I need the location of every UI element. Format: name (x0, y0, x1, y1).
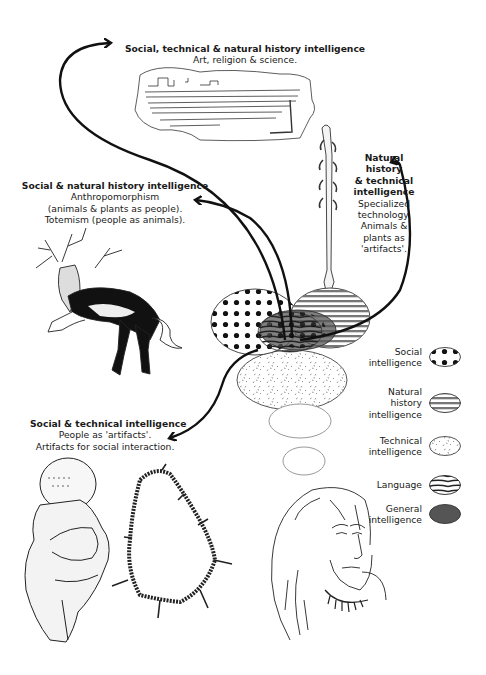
label-top: Social, technical & natural history inte… (120, 43, 370, 66)
label-right-upper-line: 'artifacts'. (346, 243, 422, 254)
label-right-upper-title: Natural history (346, 152, 422, 175)
language-pattern-icon (428, 474, 462, 496)
label-left-lower-line: People as 'artifacts'. (30, 429, 180, 440)
engraved-plaque-drawing (135, 68, 315, 141)
legend-label: Natural (369, 386, 422, 397)
empty-ellipse-2 (283, 447, 325, 475)
label-right-upper-line: plants as (346, 232, 422, 243)
deer-shaman-cave-painting (36, 228, 182, 375)
legend-label: Technical (369, 435, 422, 446)
barbed-harpoon-drawing (319, 125, 336, 300)
label-left-lower-title: Social & technical intelligence (30, 418, 180, 429)
label-right-upper-line: Animals & (346, 220, 422, 231)
label-right-upper-title: intelligence (346, 186, 422, 197)
legend-label: intelligence (369, 446, 422, 457)
legend-label: Language (377, 479, 422, 490)
natural-history-pattern-icon (428, 392, 462, 414)
label-left-upper-line: Totemism (people as animals). (20, 214, 210, 225)
label-top-title: Social, technical & natural history inte… (120, 43, 370, 54)
label-top-line: Art, religion & science. (120, 54, 370, 65)
label-right-upper-line: technology. (346, 209, 422, 220)
venus-figurine-drawing (25, 458, 109, 642)
label-left-lower: Social & technical intelligence People a… (30, 418, 180, 452)
label-left-upper: Social & natural history intelligence An… (20, 180, 210, 226)
general-pattern-icon (428, 503, 462, 525)
technical-ellipse (237, 350, 347, 410)
legend-item-general: General intelligence (369, 503, 462, 526)
label-left-upper-line: Anthropomorphism (20, 191, 210, 202)
technical-pattern-icon (428, 435, 462, 457)
legend-label: intelligence (369, 357, 422, 368)
label-left-upper-line: (animals & plants as people). (20, 203, 210, 214)
legend-label: intelligence (369, 409, 422, 420)
legend-label: history (369, 397, 422, 408)
social-pattern-icon (428, 346, 462, 368)
legend-item-natural-history: Natural history intelligence (369, 386, 462, 420)
legend-label: intelligence (369, 514, 422, 525)
legend-label: General (369, 503, 422, 514)
legend-item-language: Language (377, 474, 462, 496)
label-right-upper: Natural history & technical intelligence… (346, 152, 422, 255)
label-right-upper-line: Specialized (346, 198, 422, 209)
legend-label: Social (369, 346, 422, 357)
label-left-lower-line: Artifacts for social interaction. (30, 441, 180, 452)
label-right-upper-title: & technical (346, 175, 422, 186)
empty-ellipse-1 (269, 404, 331, 438)
legend: Social intelligence Natural history inte… (360, 330, 486, 560)
tooth-bead-necklace-drawing (112, 464, 232, 618)
legend-item-social: Social intelligence (369, 346, 462, 369)
label-left-upper-title: Social & natural history intelligence (20, 180, 210, 191)
legend-item-technical: Technical intelligence (369, 435, 462, 458)
